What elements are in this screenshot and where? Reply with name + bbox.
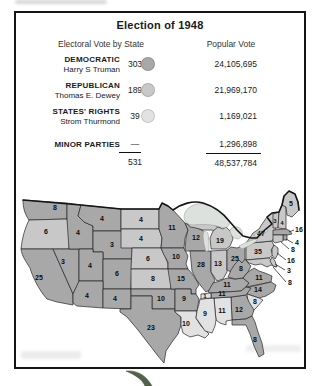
state-votes-label-id: 4 xyxy=(76,229,80,236)
state-votes-label-la: 10 xyxy=(182,320,190,327)
state-votes-label-ky: 11 xyxy=(223,281,231,288)
state-nj xyxy=(272,245,278,259)
state-votes-label-il: 28 xyxy=(197,261,205,268)
popular-votes: 1,296,898 xyxy=(186,139,257,149)
state-de xyxy=(270,257,277,267)
state-votes-label-ga: 12 xyxy=(235,306,243,313)
legend-row-republican: REPUBLICAN Thomas E. Dewey 189 21,969,17… xyxy=(16,81,304,101)
state-votes-label-mo: 15 xyxy=(177,275,185,282)
popular-votes: 21,969,170 xyxy=(186,85,257,95)
state-votes-label-sc: 8 xyxy=(253,298,257,305)
state-votes-label-mt: 4 xyxy=(100,215,104,222)
candidate-name: Thomas E. Dewey xyxy=(16,91,120,101)
state-votes-label-ca: 25 xyxy=(35,274,43,281)
state-votes-label-va: 11 xyxy=(255,274,263,281)
callout-votes-label-nj: 16 xyxy=(287,257,295,264)
party-name: STATES' RIGHTS xyxy=(16,107,120,117)
state-votes-label-al: 11 xyxy=(218,307,226,314)
state-votes-label-ut: 4 xyxy=(88,262,92,269)
total-electoral: 531 xyxy=(122,157,148,167)
state-votes-label-tn: 11 xyxy=(218,290,226,297)
state-ct xyxy=(273,235,283,243)
callout-votes-label-de: 3 xyxy=(287,267,291,274)
state-votes-label-vt: 3 xyxy=(273,218,276,224)
scan-artifact-top xyxy=(15,0,107,4)
party-name: DEMOCRATIC xyxy=(16,55,120,65)
state-votes-label-nd: 4 xyxy=(139,216,143,223)
state-votes-label-in: 13 xyxy=(214,260,222,267)
state-votes-label-ne: 6 xyxy=(146,255,150,262)
total-rule-electoral xyxy=(119,152,141,153)
state-votes-label-fl: 8 xyxy=(253,336,257,343)
state-fl xyxy=(232,316,264,357)
electoral-votes-dash: — xyxy=(122,139,148,149)
state-votes-label-tx: 23 xyxy=(147,324,155,331)
party-color-swatch xyxy=(141,57,155,71)
popular-votes: 1,169,021 xyxy=(186,111,257,121)
callout-line-ri xyxy=(286,239,293,243)
state-votes-label-ny: 47 xyxy=(257,230,265,237)
legend-row-democratic: DEMOCRATIC Harry S Truman 303 24,105,695 xyxy=(16,55,304,75)
legend-row-minor-parties: MINOR PARTIES — 1,296,898 xyxy=(16,135,304,155)
election-1948-figure-page: Election of 1948 Electoral Vote by State… xyxy=(0,0,317,386)
figure-title: Election of 1948 xyxy=(16,19,304,31)
party-name: REPUBLICAN xyxy=(16,81,120,91)
callout-votes-label-ma: 16 xyxy=(295,226,303,233)
callout-line-nj xyxy=(277,253,286,260)
total-rule-popular xyxy=(206,153,261,154)
state-votes-label-ia: 10 xyxy=(172,253,180,260)
state-votes-label-nv: 3 xyxy=(61,258,65,265)
total-popular: 48,537,784 xyxy=(186,158,257,168)
state-votes-label-or: 6 xyxy=(44,228,48,235)
state-votes-label-mi: 19 xyxy=(216,237,224,244)
column-header-popular: Popular Vote xyxy=(186,39,276,49)
state-votes-label-ar: 9 xyxy=(182,295,186,302)
state-votes-label-nc: 14 xyxy=(254,286,262,293)
state-votes-label-wi: 12 xyxy=(192,234,200,241)
state-votes-label-ks: 8 xyxy=(151,275,155,282)
state-votes-label-me: 5 xyxy=(289,200,293,207)
state-nm xyxy=(103,289,131,309)
candidate-name: Harry S Truman xyxy=(16,65,120,75)
callout-votes-label-ri: 4 xyxy=(295,239,299,246)
state-votes-label-oh: 25 xyxy=(231,255,239,262)
popular-votes: 24,105,695 xyxy=(186,59,257,69)
state-votes-label-sd: 4 xyxy=(139,235,143,242)
state-votes-label-co: 6 xyxy=(115,270,119,277)
party-name: MINOR PARTIES xyxy=(16,135,120,155)
state-votes-label-nm: 4 xyxy=(113,295,117,302)
us-electoral-map: 8625344346444468102311101591012281913251… xyxy=(15,186,305,367)
party-color-swatch xyxy=(141,109,155,123)
state-votes-label-ms: 9 xyxy=(203,310,207,317)
legend-row-states-rights: STATES' RIGHTS Strom Thurmond 39 1,169,0… xyxy=(16,107,304,127)
column-header-electoral: Electoral Vote by State xyxy=(36,39,166,49)
party-color-swatch xyxy=(141,83,155,97)
lake-superior xyxy=(184,204,229,228)
callout-line-ct xyxy=(281,242,289,249)
callout-votes-label-ct: 8 xyxy=(291,246,295,253)
scan-artifact-bottom-leaf xyxy=(116,370,160,386)
state-votes-label-az: 4 xyxy=(85,292,89,299)
state-votes-label-wv: 8 xyxy=(239,265,243,272)
candidate-name: Strom Thurmond xyxy=(16,117,120,127)
state-votes-label-wy: 3 xyxy=(110,241,114,248)
callout-votes-label-md: 8 xyxy=(288,279,292,286)
state-votes-label-ok: 10 xyxy=(157,295,165,302)
state-votes-label-pa: 35 xyxy=(254,248,262,255)
state-votes-label-wa: 8 xyxy=(53,204,57,211)
state-votes-label-mn: 11 xyxy=(168,224,176,231)
